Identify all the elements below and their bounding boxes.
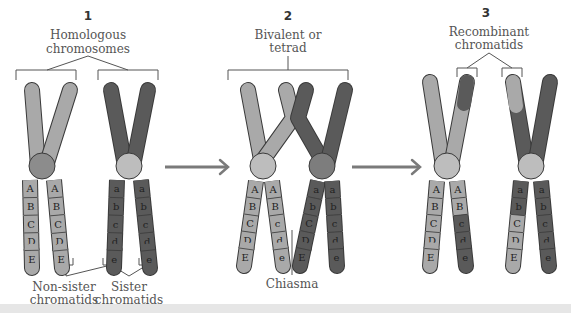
band-label: C bbox=[27, 219, 35, 230]
band-label: e bbox=[146, 254, 152, 265]
chiasma-label: Chiasma bbox=[266, 277, 319, 291]
bivalent-label-line2: tetrad bbox=[269, 41, 307, 55]
centromere bbox=[29, 153, 55, 179]
recombinant-tip-dark bbox=[464, 82, 467, 104]
band-label: a bbox=[114, 183, 120, 194]
band-label: A bbox=[26, 183, 35, 194]
centromere bbox=[518, 153, 544, 179]
band-label: c bbox=[542, 218, 548, 229]
bracket-homolog-2 bbox=[98, 70, 158, 80]
band-label: a bbox=[330, 184, 336, 195]
bottom-strip bbox=[0, 304, 571, 313]
band-label: c bbox=[332, 218, 338, 229]
band-label: c bbox=[143, 219, 149, 230]
homologous-chromosomes-label-line1: Homologous bbox=[50, 28, 126, 42]
bracket-bivalent bbox=[228, 70, 348, 80]
band-label: A bbox=[50, 183, 59, 194]
band-label: E bbox=[510, 252, 517, 263]
band-label: E bbox=[28, 254, 35, 265]
band-label: c bbox=[275, 218, 281, 229]
recombinant-tip-light bbox=[513, 82, 516, 106]
centromere bbox=[250, 153, 276, 179]
band-label: A bbox=[432, 184, 441, 195]
crossing-over-diagram: 1 2 3 Homologous chromosomes Bivalent or… bbox=[0, 0, 571, 313]
band-label: c bbox=[459, 218, 465, 229]
band-label: A bbox=[268, 184, 277, 195]
band-label: b bbox=[140, 201, 146, 212]
band-label: B bbox=[272, 201, 279, 212]
band-label: B bbox=[27, 201, 34, 212]
band-label: c bbox=[113, 219, 119, 230]
stage-3-chromosomes: ABCDEABcdeabCDEabcde bbox=[424, 82, 554, 266]
band-label: E bbox=[427, 252, 434, 263]
leader-recombinant bbox=[467, 53, 512, 68]
arrows bbox=[165, 160, 420, 174]
non-sister-chromatids-label-line1: Non-sister bbox=[32, 280, 96, 294]
band-label: E bbox=[298, 252, 305, 263]
band-label: C bbox=[305, 218, 313, 229]
band-label: b bbox=[515, 201, 521, 212]
homolog-1-upper-arm-2 bbox=[46, 90, 70, 166]
stage-1-number: 1 bbox=[84, 9, 92, 23]
stage-1-chromosomes: ABCDEABCDEabcdeabcde bbox=[23, 90, 155, 268]
band-label: a bbox=[517, 184, 523, 195]
band-label: b bbox=[309, 201, 315, 212]
centromere bbox=[434, 153, 460, 179]
band-label: C bbox=[246, 218, 254, 229]
band-label: B bbox=[456, 201, 463, 212]
stage-2-number: 2 bbox=[284, 9, 292, 23]
band-label: e bbox=[462, 252, 468, 263]
chromosomes: ABCDEABCDEabcdeabcdeABCDEabCDEABcdeabcde… bbox=[23, 82, 554, 268]
band-label: C bbox=[54, 219, 62, 230]
recombinant-right-upper-2 bbox=[535, 82, 550, 166]
band-label: C bbox=[513, 218, 521, 229]
band-label: a bbox=[313, 184, 319, 195]
homologous-chromosomes-label-line2: chromosomes bbox=[46, 42, 130, 56]
band-label: e bbox=[111, 254, 117, 265]
band-label: B bbox=[249, 201, 256, 212]
band-label: a bbox=[139, 183, 145, 194]
band-label: A bbox=[453, 184, 462, 195]
bivalent-left-inner-upper bbox=[263, 90, 293, 160]
recombinant-left-upper-1 bbox=[430, 82, 443, 166]
centromere bbox=[309, 153, 335, 179]
centromere bbox=[116, 153, 142, 179]
recombinant-label-line1: Recombinant bbox=[449, 25, 530, 39]
band-label: b bbox=[113, 201, 119, 212]
bivalent-right-inner-upper bbox=[298, 90, 322, 160]
band-label: E bbox=[58, 254, 65, 265]
band-label: e bbox=[334, 252, 340, 263]
band-label: A bbox=[250, 184, 259, 195]
recombinant-label-line2: chromatids bbox=[455, 38, 523, 52]
band-label: B bbox=[53, 201, 60, 212]
band-label: B bbox=[431, 201, 438, 212]
sister-chromatids-label-line1: Sister bbox=[111, 280, 147, 294]
leader-non-sister bbox=[66, 265, 111, 276]
band-label: E bbox=[242, 252, 249, 263]
band-label: a bbox=[539, 184, 545, 195]
stage-3-number: 3 bbox=[482, 6, 490, 20]
band-label: e bbox=[279, 252, 285, 263]
bivalent-label-line1: Bivalent or bbox=[255, 28, 322, 42]
bivalent-right-outer-upper bbox=[327, 90, 345, 165]
band-label: b bbox=[330, 201, 336, 212]
band-label: b bbox=[540, 201, 546, 212]
band-label: C bbox=[430, 218, 438, 229]
leader-homologous bbox=[47, 56, 128, 70]
bracket-homolog-1 bbox=[16, 70, 76, 80]
band-label: e bbox=[545, 252, 551, 263]
